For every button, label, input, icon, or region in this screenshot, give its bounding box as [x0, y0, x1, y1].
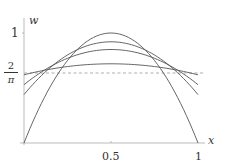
x-tick-label-one: 1 — [195, 151, 202, 162]
x-tick-label-half: 0.5 — [102, 151, 120, 162]
y-tick-label-two-over-pi: 2 π — [4, 60, 18, 85]
x-axis-label: x — [208, 135, 214, 146]
series-line-3 — [24, 50, 198, 85]
y-axis-label: w — [29, 15, 38, 26]
frac-numerator: 2 — [4, 60, 18, 73]
series-line-4 — [24, 64, 198, 75]
frac-denominator: π — [4, 73, 18, 85]
y-tick-label-one: 1 — [11, 27, 19, 39]
